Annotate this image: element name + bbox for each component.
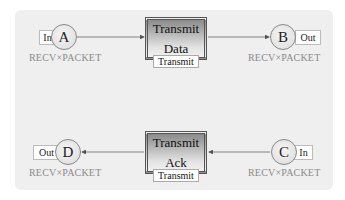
color-set-c: RECV×PACKET	[248, 167, 320, 178]
transition-transmit-data[interactable]: Transmit Data	[145, 17, 207, 60]
place-c[interactable]: C	[271, 139, 297, 165]
subpage-tag-transmit-data[interactable]: Transmit	[153, 55, 199, 68]
transition-transmit-ack[interactable]: Transmit Ack	[145, 131, 207, 174]
transition-name-line1: Transmit	[148, 135, 204, 151]
color-set-a: RECV×PACKET	[29, 52, 101, 63]
subpage-tag-transmit-ack[interactable]: Transmit	[153, 169, 199, 182]
color-set-d: RECV×PACKET	[29, 167, 101, 178]
port-tag-b: Out	[295, 30, 321, 45]
place-a[interactable]: A	[51, 24, 77, 50]
color-set-b: RECV×PACKET	[248, 52, 320, 63]
place-b[interactable]: B	[270, 24, 296, 50]
transition-name-line1: Transmit	[148, 21, 204, 37]
place-d[interactable]: D	[55, 139, 81, 165]
